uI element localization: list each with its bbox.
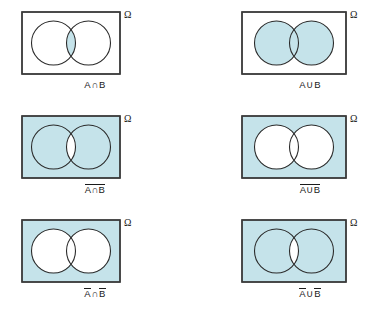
caption-term: A xyxy=(84,288,91,300)
caption-term: A xyxy=(299,79,306,90)
panel-a-intersect-b: ΩA∩B xyxy=(0,0,189,104)
caption-operator: ∩ xyxy=(91,79,99,90)
panel-not-a-union-not-b: ΩA∪B xyxy=(189,208,378,312)
caption-not-a-union-not-b: A∪B xyxy=(189,288,378,300)
caption-complement-of-a-intersect-b: A∩B xyxy=(0,184,189,196)
universe-label: Ω xyxy=(350,113,357,124)
caption-term: A xyxy=(84,79,91,90)
venn-diagram-figure: ΩA∩BΩA∪BΩA∩BΩA∪BΩA∩BΩA∪B xyxy=(0,0,378,314)
caption-term: A xyxy=(299,288,306,300)
panel-a-union-b: ΩA∪B xyxy=(189,0,378,104)
universe-label: Ω xyxy=(124,9,131,20)
caption-complement-of-a-union-b: A∪B xyxy=(189,184,378,196)
caption-term: B xyxy=(99,79,106,90)
universe-label: Ω xyxy=(350,217,357,228)
caption-operator: ∪ xyxy=(306,79,314,90)
caption-term: B xyxy=(314,79,321,90)
caption-a-union-b: A∪B xyxy=(189,80,378,90)
caption-a-intersect-b: A∩B xyxy=(0,80,189,90)
universe-label: Ω xyxy=(124,217,131,228)
universe-label: Ω xyxy=(350,9,357,20)
caption-term: A∪B xyxy=(300,184,321,196)
caption-not-a-intersect-not-b: A∩B xyxy=(0,288,189,300)
universe-label: Ω xyxy=(124,113,131,124)
caption-term: B xyxy=(314,288,321,300)
caption-operator: ∪ xyxy=(306,288,314,299)
caption-operator: ∩ xyxy=(91,288,99,299)
panel-complement-of-a-union-b: ΩA∪B xyxy=(189,104,378,208)
caption-term: B xyxy=(99,288,106,300)
panel-not-a-intersect-not-b: ΩA∩B xyxy=(0,208,189,312)
panel-complement-of-a-intersect-b: ΩA∩B xyxy=(0,104,189,208)
caption-term: A∩B xyxy=(85,184,105,196)
